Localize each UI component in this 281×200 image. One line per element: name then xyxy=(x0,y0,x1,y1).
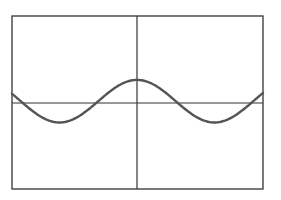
chart xyxy=(0,0,281,200)
